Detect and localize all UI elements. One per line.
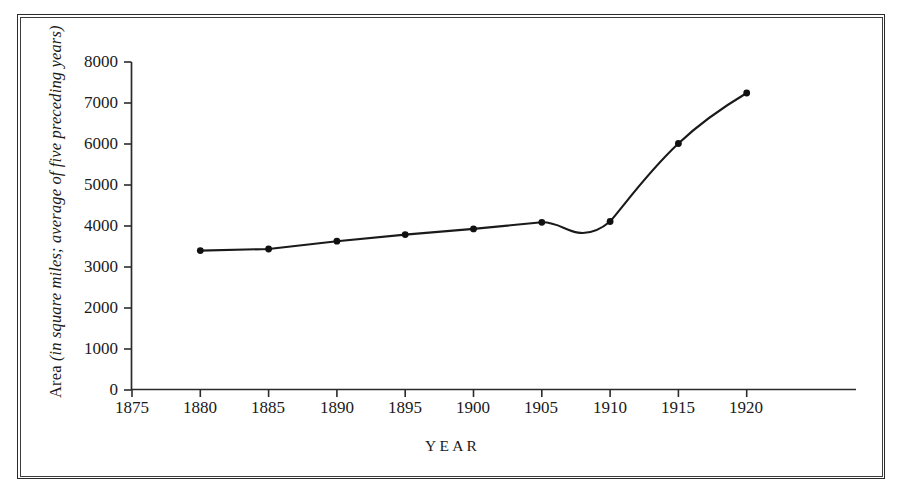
data-point-1900	[470, 226, 477, 233]
data-point-1920	[743, 90, 750, 97]
data-point-1885	[265, 246, 272, 253]
data-point-1890	[334, 238, 341, 245]
data-point-1880	[197, 247, 204, 254]
y-tick-marks	[124, 62, 132, 390]
chart-figure: Area (in square miles; average of five p…	[0, 0, 902, 501]
data-markers	[197, 90, 750, 254]
data-point-1915	[675, 140, 682, 147]
data-point-1895	[402, 231, 409, 238]
x-tick-marks	[132, 390, 747, 397]
data-point-1910	[607, 218, 614, 225]
plot-area	[0, 0, 902, 501]
data-point-1905	[538, 219, 545, 226]
